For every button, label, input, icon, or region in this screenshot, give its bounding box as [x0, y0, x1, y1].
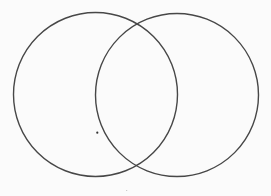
faint-mark	[126, 190, 127, 191]
venn-diagram	[0, 0, 271, 196]
marker-dot	[96, 132, 98, 134]
